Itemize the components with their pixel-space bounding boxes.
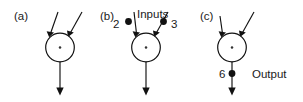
panel-c-output-value: 6 (219, 68, 225, 80)
panel-a-tag: (a) (14, 10, 28, 22)
panel-b-input-left-value: 2 (113, 18, 119, 30)
panel-b-output-arrowhead (142, 88, 149, 96)
panel-c-tag: (c) (200, 10, 214, 22)
panel-c-input-left-line (220, 16, 223, 34)
panel-c-output-arrowhead (228, 88, 235, 96)
panel-b-input-right-value: 3 (171, 18, 177, 30)
panel-a-node-center-dot (59, 46, 62, 49)
panel-b-input-left-dot (125, 18, 132, 25)
panel-b-node-center-dot (145, 46, 148, 49)
panel-c-node-center-dot (231, 46, 234, 49)
neuron-node-diagram: (a) (b) Inputs 2 3 (0, 0, 303, 102)
panel-c-input-right-line (242, 12, 254, 34)
panel-b-input-right-dot (160, 18, 167, 25)
panel-a-input-left-line (51, 12, 59, 34)
figure-container: (a) (b) Inputs 2 3 (0, 0, 303, 102)
panel-a-input-right-line (70, 12, 82, 34)
panel-a-output-arrowhead (56, 88, 63, 96)
panel-c: (c) 6 Output (200, 10, 287, 96)
panel-c-output-caption: Output (252, 68, 287, 80)
panel-c-output-dot (229, 70, 236, 77)
panel-b: (b) Inputs 2 3 (100, 8, 177, 96)
panel-a: (a) (14, 10, 82, 96)
